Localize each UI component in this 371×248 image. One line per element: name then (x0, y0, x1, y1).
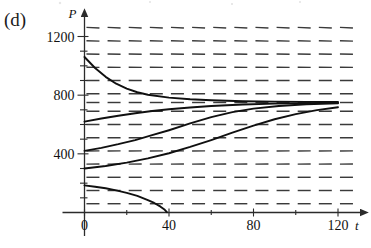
x-tick-label: 120 (328, 218, 349, 233)
direction-field-plot: 040801204008001200 Pt (0, 0, 371, 248)
y-tick-label: 400 (54, 147, 75, 162)
slope-dash (255, 27, 268, 28)
solution-curve (85, 57, 339, 102)
axis-tick-labels: 040801204008001200 (47, 30, 349, 233)
slope-dash (129, 27, 142, 28)
slope-dash (171, 27, 184, 28)
slope-dash (213, 27, 226, 28)
slope-dash (108, 27, 121, 28)
slope-dash (298, 27, 311, 28)
axes (63, 16, 362, 236)
slope-dash (234, 27, 247, 28)
slope-dash (150, 27, 163, 28)
slope-dash (86, 27, 99, 28)
x-tick-label: 80 (247, 218, 261, 233)
slope-dash (192, 27, 205, 28)
y-tick-label: 800 (54, 88, 75, 103)
y-axis-name: P (68, 6, 77, 21)
x-tick-label: 40 (162, 218, 176, 233)
solution-curve (85, 185, 167, 212)
slope-dash (277, 27, 290, 28)
y-tick-label: 1200 (47, 30, 75, 45)
slope-dash (340, 27, 353, 28)
figure-panel: (d) 040801204008001200 Pt (0, 0, 371, 248)
x-axis-name: t (355, 218, 359, 233)
solution-curve (85, 103, 339, 151)
slope-dash (319, 27, 332, 28)
x-tick-label: 0 (81, 218, 88, 233)
